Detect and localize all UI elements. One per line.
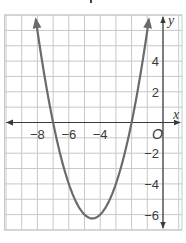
y-tick-label: −6 [144,208,159,223]
y-tick-label: −4 [144,177,159,192]
origin-label: O [152,126,163,142]
y-axis-label: y [166,13,175,28]
x-tick-label: −6 [61,127,76,142]
x-tick-label: −4 [93,127,108,142]
x-axis-label: x [172,107,180,122]
cropped-title-fragment [90,0,92,3]
y-tick-label: 2 [152,85,159,100]
y-tick-label: 4 [152,54,159,69]
axes [7,17,181,228]
x-tick-label: −8 [30,127,45,142]
y-tick-label: −2 [144,146,159,161]
parabola-graph: −8−6−442−2−4−6xyO [0,0,186,243]
